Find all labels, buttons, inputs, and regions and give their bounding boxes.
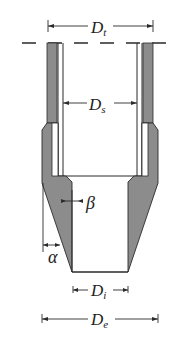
dimension-de: De — [42, 310, 158, 330]
di-label: Di — [90, 281, 106, 301]
beta-label: β — [85, 193, 95, 213]
dimension-di: Di — [73, 281, 128, 301]
ds-label: Ds — [88, 95, 106, 115]
dimension-ds: Ds — [63, 95, 137, 115]
de-label: De — [90, 310, 108, 330]
alpha-label: α — [48, 247, 58, 267]
nozzle-diagram: Dt Ds β α Di De — [0, 0, 186, 343]
dt-label: Dt — [90, 18, 107, 38]
nozzle-taper — [42, 123, 158, 272]
dimension-dt: Dt — [48, 18, 153, 38]
